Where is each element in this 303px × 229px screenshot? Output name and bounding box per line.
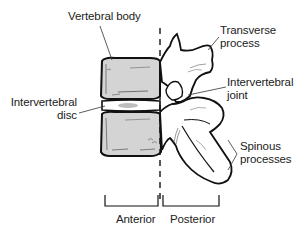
posterior-bracket xyxy=(163,195,219,206)
label-intervertebral-disc: Intervertebral disc xyxy=(10,96,77,122)
label-intervertebral-joint: Intervertebral joint xyxy=(227,76,293,102)
spine-diagram: Vertebral body Transverse process Interv… xyxy=(0,0,303,229)
label-posterior: Posterior xyxy=(170,213,215,226)
lower-posterior-elements xyxy=(160,97,232,183)
lower-vertebral-body xyxy=(101,112,161,156)
label-anterior: Anterior xyxy=(116,213,155,226)
anterior-bracket xyxy=(105,195,158,206)
region-brackets xyxy=(105,195,219,206)
label-transverse-process: Transverse process xyxy=(220,24,276,50)
upper-vertebral-body xyxy=(101,58,160,99)
label-spinous-processes: Spinous processes xyxy=(240,140,292,166)
label-vertebral-body: Vertebral body xyxy=(68,10,141,23)
intervertebral-disc xyxy=(102,100,160,111)
